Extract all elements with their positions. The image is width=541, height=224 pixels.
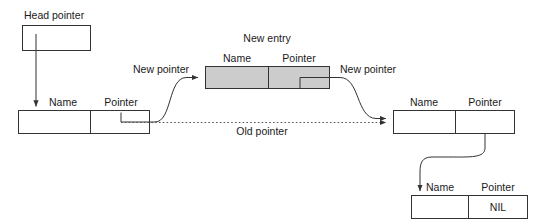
new-entry-name-header: Name xyxy=(223,53,251,64)
tail-node-pointer-value: NIL xyxy=(490,201,506,213)
new-entry-label: New entry xyxy=(243,33,290,44)
tail-node-name-header: Name xyxy=(426,182,454,193)
new-entry-pointer-header: Pointer xyxy=(282,53,315,64)
head-pointer-label: Head pointer xyxy=(24,10,84,21)
new-pointer-left-label: New pointer xyxy=(133,64,189,75)
existing-node-pointer-header: Pointer xyxy=(104,97,137,108)
next-node-name-header: Name xyxy=(410,97,438,108)
linked-list-diagram: Head pointer New entry Name Pointer Name… xyxy=(0,0,541,224)
next-node-shape xyxy=(394,111,515,134)
tail-node-pointer-header: Pointer xyxy=(481,182,514,193)
new-pointer-right-label: New pointer xyxy=(340,64,396,75)
next-node-pointer-header: Pointer xyxy=(468,97,501,108)
tail-node-shape xyxy=(412,196,528,219)
old-pointer-label: Old pointer xyxy=(236,126,287,137)
head-pointer-box-shape xyxy=(23,26,91,51)
existing-node-name-header: Name xyxy=(49,97,77,108)
